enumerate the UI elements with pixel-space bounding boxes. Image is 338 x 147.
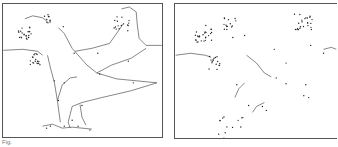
- dot: [219, 120, 220, 121]
- dot: [73, 53, 74, 54]
- dot: [224, 132, 225, 133]
- dot: [311, 19, 312, 20]
- dot: [301, 19, 302, 20]
- dot: [226, 29, 227, 30]
- dot: [296, 29, 297, 30]
- curve-line: [247, 55, 272, 77]
- dot: [46, 127, 47, 128]
- dot: [128, 60, 129, 61]
- dot: [241, 117, 242, 118]
- dot: [36, 62, 37, 63]
- ground-line: [176, 53, 211, 57]
- feet-line: [43, 124, 92, 129]
- dot: [49, 20, 50, 21]
- dot: [224, 17, 225, 18]
- dot: [128, 22, 129, 23]
- dot: [203, 40, 204, 41]
- dot: [201, 40, 202, 41]
- dot: [298, 29, 299, 30]
- dot: [114, 20, 115, 21]
- dot: [226, 26, 227, 27]
- dot: [29, 31, 30, 32]
- dot: [208, 35, 209, 36]
- dot: [236, 84, 237, 85]
- dot: [18, 32, 19, 33]
- dot: [29, 27, 30, 28]
- dot: [35, 59, 36, 60]
- dot: [310, 23, 311, 24]
- dot: [30, 64, 31, 65]
- dot: [116, 16, 117, 17]
- dot: [34, 53, 35, 54]
- dot: [234, 18, 235, 19]
- dot: [299, 14, 300, 15]
- dot: [310, 45, 311, 46]
- dot: [127, 30, 128, 31]
- dot: [196, 41, 197, 42]
- dot: [307, 17, 308, 18]
- dot: [195, 40, 196, 41]
- dot: [219, 65, 220, 66]
- dot: [226, 126, 227, 127]
- dot: [27, 31, 28, 32]
- dot: [48, 16, 49, 17]
- dot: [232, 127, 233, 128]
- dot: [197, 36, 198, 37]
- dot: [128, 20, 129, 21]
- figure-caption: Fig.: [2, 139, 12, 145]
- dot: [49, 21, 50, 22]
- dot: [39, 64, 40, 65]
- dot: [211, 32, 212, 33]
- back-line: [58, 28, 157, 83]
- dot: [298, 23, 299, 24]
- dot: [26, 38, 27, 39]
- arm-line: [57, 77, 77, 101]
- dot: [18, 30, 19, 31]
- dot: [300, 26, 301, 27]
- dot: [218, 133, 219, 134]
- dot: [123, 23, 124, 24]
- dot: [232, 37, 233, 38]
- dot: [210, 33, 211, 34]
- dot: [303, 95, 304, 96]
- dot: [307, 22, 308, 23]
- dot: [21, 37, 22, 38]
- dot: [35, 61, 36, 62]
- dot-puzzle-panel-left: [2, 3, 163, 138]
- dot: [205, 37, 206, 38]
- leg-line: [80, 104, 86, 125]
- dot: [309, 16, 310, 17]
- dot: [211, 29, 212, 30]
- dot: [262, 106, 263, 107]
- dot: [240, 126, 241, 127]
- chest-line: [48, 55, 61, 122]
- dot: [208, 68, 209, 69]
- dot: [33, 62, 34, 63]
- dot: [26, 35, 27, 36]
- dot: [299, 28, 300, 29]
- dot: [294, 14, 295, 15]
- dot: [54, 80, 55, 81]
- dot: [113, 27, 114, 28]
- dot: [30, 60, 31, 61]
- dot: [211, 62, 212, 63]
- dot: [71, 120, 72, 121]
- dot: [23, 33, 24, 34]
- dot: [47, 22, 48, 23]
- dot: [47, 14, 48, 15]
- dot: [205, 40, 206, 41]
- dot-puzzle-panel-right: [174, 3, 337, 139]
- dot: [205, 25, 206, 26]
- dot: [213, 58, 214, 59]
- dot: [199, 35, 200, 36]
- dot: [295, 29, 296, 30]
- dot: [285, 83, 286, 84]
- dot: [64, 125, 65, 126]
- dot: [30, 33, 31, 34]
- dot: [58, 100, 59, 101]
- dot: [305, 84, 306, 85]
- dot: [211, 40, 212, 41]
- dot: [235, 20, 236, 21]
- dot: [115, 26, 116, 27]
- dot: [223, 116, 224, 117]
